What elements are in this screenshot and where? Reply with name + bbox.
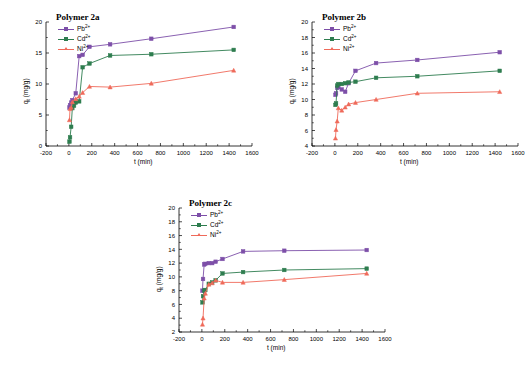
data-point-Ni2+ [200, 322, 204, 326]
svg-text:1000: 1000 [177, 150, 191, 156]
svg-text:200: 200 [353, 150, 364, 156]
svg-text:4: 4 [172, 315, 176, 321]
svg-text:1200: 1200 [333, 336, 347, 342]
data-point-Cd2+ [69, 125, 73, 129]
legend-swatch-Cd2+ [191, 222, 207, 229]
svg-text:200: 200 [220, 336, 231, 342]
svg-text:5: 5 [39, 112, 43, 118]
y-axis-label-polymer-2c: qt (mg/g) [155, 266, 164, 292]
legend-swatch-Cd2+ [58, 36, 74, 43]
legend-item-Ni2+[interactable]: Ni2+ [324, 44, 357, 54]
svg-text:1400: 1400 [355, 336, 369, 342]
data-point-Pb2+ [210, 261, 214, 265]
data-point-Cd2+ [340, 82, 344, 86]
legend-swatch-Pb2+ [324, 26, 340, 33]
data-point-Cd2+ [88, 62, 92, 66]
legend-item-Cd2+[interactable]: Cd2+ [191, 220, 224, 230]
svg-text:10: 10 [168, 274, 175, 280]
chart-panel-polymer-2c: -200020040060080010001200140016002468101… [133, 182, 399, 372]
legend-label-Ni2+: Ni2+ [77, 45, 88, 53]
legend-item-Pb2+[interactable]: Pb2+ [58, 24, 91, 34]
svg-text:1200: 1200 [466, 150, 480, 156]
data-point-Pb2+ [207, 261, 211, 265]
data-point-Pb2+ [365, 248, 369, 252]
data-point-Cd2+ [334, 102, 338, 106]
svg-text:1000: 1000 [310, 336, 324, 342]
data-point-Cd2+ [347, 81, 351, 85]
data-point-Pb2+ [374, 61, 378, 65]
svg-text:20: 20 [168, 205, 175, 211]
data-point-Cd2+ [77, 100, 81, 104]
svg-text:600: 600 [399, 150, 410, 156]
data-point-Pb2+ [204, 262, 208, 266]
data-point-Cd2+ [498, 69, 502, 73]
legend-polymer-2a: Pb2+Cd2+Ni2+ [58, 24, 91, 54]
svg-text:18: 18 [168, 219, 175, 225]
legend-swatch-Cd2+ [324, 36, 340, 43]
data-point-Cd2+ [374, 76, 378, 80]
svg-text:6: 6 [305, 128, 309, 134]
data-point-Cd2+ [149, 52, 153, 56]
data-point-Pb2+ [354, 69, 358, 73]
legend-item-Cd2+[interactable]: Cd2+ [324, 34, 357, 44]
legend-item-Pb2+[interactable]: Pb2+ [191, 210, 224, 220]
data-point-Pb2+ [282, 249, 286, 253]
svg-text:400: 400 [110, 150, 121, 156]
svg-text:200: 200 [87, 150, 98, 156]
legend-label-Pb2+: Pb2+ [343, 25, 356, 33]
legend-swatch-Ni2+ [324, 46, 340, 53]
svg-text:10: 10 [35, 81, 42, 87]
svg-text:1600: 1600 [511, 150, 525, 156]
data-point-Cd2+ [68, 136, 72, 140]
data-point-Pb2+ [415, 58, 419, 62]
data-point-Ni2+ [334, 128, 338, 132]
legend-swatch-Ni2+ [191, 232, 207, 239]
data-point-Cd2+ [354, 80, 358, 84]
data-point-Cd2+ [241, 270, 245, 274]
plot-area-polymer-2c: -200020040060080010001200140016002468101… [133, 182, 399, 372]
legend-item-Pb2+[interactable]: Pb2+ [324, 24, 357, 34]
svg-text:6: 6 [172, 302, 176, 308]
data-point-Pb2+ [498, 50, 502, 54]
svg-text:0: 0 [39, 143, 43, 149]
data-point-Cd2+ [81, 65, 85, 69]
data-point-Pb2+ [149, 37, 153, 41]
legend-item-Ni2+[interactable]: Ni2+ [191, 230, 224, 240]
legend-item-Cd2+[interactable]: Cd2+ [58, 34, 91, 44]
svg-text:-200: -200 [40, 150, 53, 156]
data-point-Cd2+ [282, 268, 286, 272]
svg-text:0: 0 [333, 150, 337, 156]
data-point-Pb2+ [74, 92, 78, 96]
svg-text:12: 12 [301, 81, 308, 87]
svg-text:4: 4 [305, 143, 309, 149]
svg-text:800: 800 [155, 150, 166, 156]
y-axis-label-polymer-2b: qt (mg/g) [288, 78, 297, 104]
legend-label-Pb2+: Pb2+ [77, 25, 90, 33]
data-point-Pb2+ [343, 90, 347, 94]
svg-text:600: 600 [133, 150, 144, 156]
svg-text:8: 8 [305, 112, 309, 118]
data-point-Pb2+ [334, 92, 338, 96]
svg-text:1400: 1400 [488, 150, 502, 156]
svg-text:-200: -200 [306, 150, 319, 156]
plot-title-polymer-2a: Polymer 2a [56, 12, 100, 22]
svg-text:16: 16 [168, 233, 175, 239]
data-point-Cd2+ [365, 267, 369, 271]
svg-text:2: 2 [172, 329, 176, 335]
chart-panel-polymer-2b: -200020040060080010001200140016004681012… [266, 0, 532, 186]
data-point-Ni2+ [67, 118, 71, 122]
data-point-Cd2+ [415, 74, 419, 78]
svg-text:800: 800 [421, 150, 432, 156]
legend-swatch-Ni2+ [58, 46, 74, 53]
svg-text:14: 14 [301, 66, 308, 72]
svg-text:800: 800 [288, 336, 299, 342]
plot-area-polymer-2a: -200020040060080010001200140016000510152… [0, 0, 266, 186]
chart-panel-polymer-2a: -200020040060080010001200140016000510152… [0, 0, 266, 186]
svg-text:0: 0 [200, 336, 204, 342]
data-point-Pb2+ [214, 260, 218, 264]
data-point-Ni2+ [201, 316, 205, 320]
legend-label-Cd2+: Cd2+ [77, 35, 91, 43]
legend-item-Ni2+[interactable]: Ni2+ [58, 44, 91, 54]
svg-text:1200: 1200 [200, 150, 214, 156]
data-point-Cd2+ [68, 140, 72, 144]
